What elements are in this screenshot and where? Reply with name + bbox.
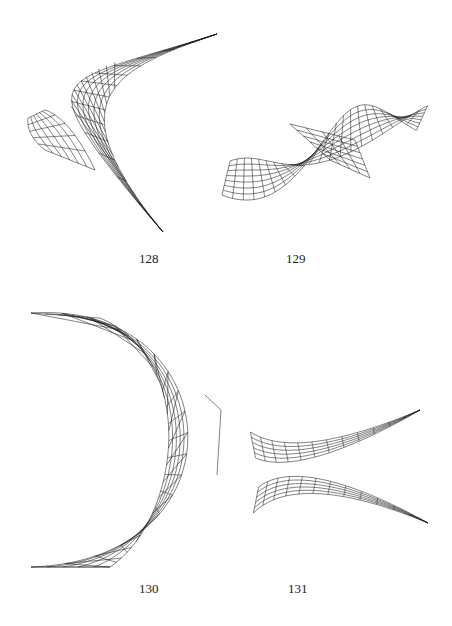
figure-label-129: 129 bbox=[286, 252, 306, 265]
figure-label-128: 128 bbox=[139, 252, 159, 265]
wireframe-surface-131 bbox=[250, 410, 428, 523]
figure-canvas bbox=[0, 0, 452, 626]
wireframe-surface-129 bbox=[222, 105, 428, 200]
wireframe-surface-128 bbox=[28, 34, 217, 232]
figure-label-131: 131 bbox=[288, 582, 308, 595]
figure-label-130: 130 bbox=[139, 582, 159, 595]
wireframe-surface-130 bbox=[31, 313, 221, 567]
